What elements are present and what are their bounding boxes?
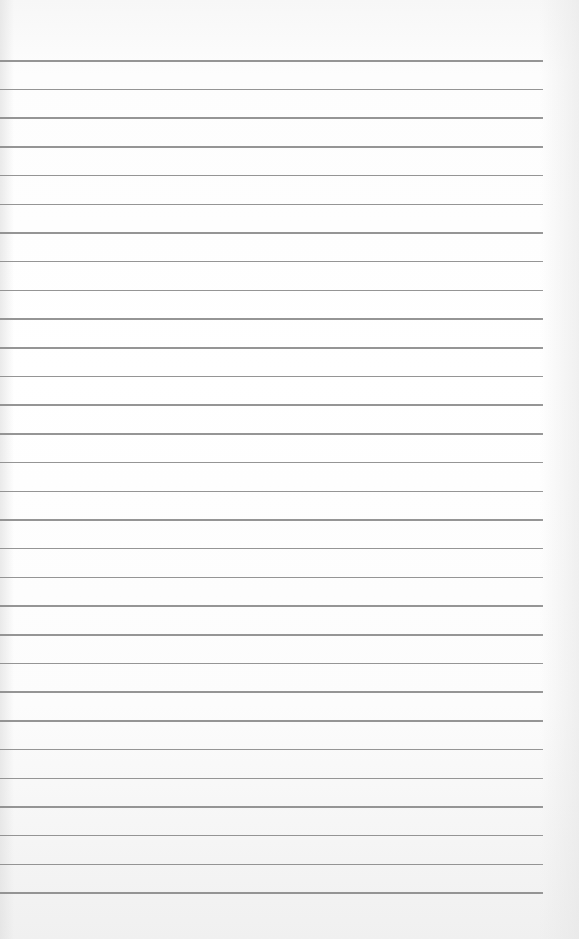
ruled-line — [0, 347, 543, 349]
ruled-line — [0, 146, 543, 148]
ruled-line — [0, 404, 543, 406]
ruled-line — [0, 778, 543, 780]
ruled-line — [0, 605, 543, 607]
ruled-line — [0, 204, 543, 206]
ruled-line — [0, 691, 543, 693]
ruled-line — [0, 806, 543, 808]
ruled-line — [0, 491, 543, 493]
ruled-line — [0, 175, 543, 177]
ruled-line — [0, 232, 543, 234]
ruled-line — [0, 634, 543, 636]
ruled-line — [0, 433, 543, 435]
ruled-line — [0, 519, 543, 521]
lined-paper-sheet — [0, 0, 579, 939]
ruled-line — [0, 60, 543, 62]
ruled-line — [0, 376, 543, 378]
ruled-line — [0, 663, 543, 665]
ruled-line — [0, 577, 543, 579]
ruled-line — [0, 462, 543, 464]
ruled-line — [0, 290, 543, 292]
ruled-line — [0, 864, 543, 866]
ruled-line — [0, 318, 543, 320]
ruled-line — [0, 835, 543, 837]
ruled-line — [0, 261, 543, 263]
ruled-line — [0, 117, 543, 119]
ruled-line — [0, 720, 543, 722]
ruled-line — [0, 892, 543, 894]
ruled-line — [0, 89, 543, 91]
ruled-line — [0, 548, 543, 550]
ruled-line — [0, 749, 543, 751]
